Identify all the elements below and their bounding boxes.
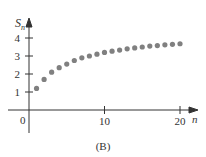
data-point: [155, 43, 160, 48]
data-point: [170, 42, 175, 47]
data-point: [79, 55, 84, 60]
data-point: [117, 47, 122, 52]
x-axis-label: n: [192, 113, 198, 125]
y-axis-arrow-icon: [26, 18, 32, 27]
y-tick-label: 1: [15, 86, 21, 98]
data-point: [177, 41, 182, 46]
y-tick-label: 4: [15, 32, 21, 44]
origin-label: 0: [20, 114, 26, 126]
data-point: [72, 58, 77, 63]
data-point: [87, 53, 92, 58]
x-tick-label: 10: [99, 115, 111, 127]
data-point: [57, 65, 62, 70]
y-axis-label: Sn: [15, 16, 25, 32]
data-point: [64, 62, 69, 67]
data-point: [34, 86, 39, 91]
y-tick-label: 3: [15, 50, 21, 62]
data-point: [132, 45, 137, 50]
data-point: [109, 49, 114, 54]
data-point: [125, 46, 130, 51]
data-point: [162, 42, 167, 47]
ticks: 12341020: [15, 32, 187, 127]
y-tick-label: 2: [15, 68, 21, 80]
x-tick-label: 20: [175, 115, 187, 127]
data-point: [140, 44, 145, 49]
data-point: [42, 77, 47, 82]
data-point: [147, 44, 152, 49]
data-point: [102, 50, 107, 55]
partial-sums-chart: 12341020 Sn n 0 (B): [0, 0, 206, 157]
data-point: [49, 70, 54, 75]
data-point: [94, 52, 99, 57]
chart-caption: (B): [96, 140, 111, 153]
data-points: [34, 41, 183, 91]
